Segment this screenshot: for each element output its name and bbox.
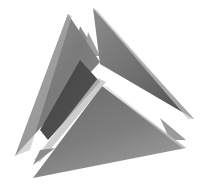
image-canvas <box>0 0 220 194</box>
triangle-sculpture <box>0 0 220 194</box>
